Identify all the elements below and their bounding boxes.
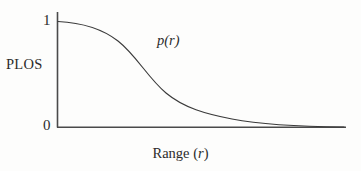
y-axis-tick-label-top: 1 <box>43 13 51 28</box>
x-axis-label-text: Range ( <box>153 145 199 161</box>
y-axis-tick-label-bottom: 0 <box>43 118 51 133</box>
plos-range-figure: PLOS 1 0 p(r) Range (r) <box>0 0 361 171</box>
curve-label-p-of-r: p(r) <box>157 33 180 48</box>
plos-curve <box>58 22 344 128</box>
y-axis-label: PLOS <box>6 57 43 72</box>
x-axis-label: Range (r) <box>0 146 361 161</box>
x-axis-label-close: ) <box>204 145 209 161</box>
